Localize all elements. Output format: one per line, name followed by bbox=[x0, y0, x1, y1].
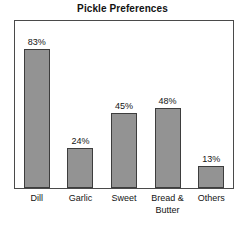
category-label: Bread &Butter bbox=[146, 192, 190, 216]
bars-layer: 83%24%45%48%13% bbox=[15, 21, 233, 188]
bar-dill: 83% bbox=[24, 21, 50, 188]
chart-title: Pickle Preferences bbox=[0, 3, 245, 14]
bar-rect bbox=[155, 108, 181, 188]
category-label-line: Dill bbox=[31, 193, 44, 203]
bar-rect bbox=[24, 49, 50, 188]
bar-sweet: 45% bbox=[111, 21, 137, 188]
category-label-line: Bread & bbox=[151, 193, 184, 203]
bar-rect bbox=[111, 113, 137, 188]
category-label: Garlic bbox=[59, 192, 103, 204]
bar-rect bbox=[198, 166, 224, 188]
category-axis-labels: DillGarlicSweetBread &ButterOthers bbox=[15, 192, 233, 226]
bar-others: 13% bbox=[198, 21, 224, 188]
bar-value-label: 48% bbox=[159, 96, 177, 106]
category-label-line: Butter bbox=[146, 204, 190, 216]
category-label: Sweet bbox=[102, 192, 146, 204]
category-label-line: Others bbox=[198, 193, 225, 203]
bar-value-label: 24% bbox=[71, 136, 89, 146]
bar-garlic: 24% bbox=[67, 21, 93, 188]
bar-value-label: 13% bbox=[202, 154, 220, 164]
bar-rect bbox=[67, 148, 93, 188]
bar-bread-butter: 48% bbox=[155, 21, 181, 188]
category-label-line: Sweet bbox=[111, 193, 136, 203]
category-label-line: Garlic bbox=[69, 193, 93, 203]
category-label: Dill bbox=[15, 192, 59, 204]
bar-value-label: 83% bbox=[28, 37, 46, 47]
bar-value-label: 45% bbox=[115, 101, 133, 111]
category-label: Others bbox=[189, 192, 233, 204]
bar-chart: Pickle Preferences 83%24%45%48%13% DillG… bbox=[0, 0, 245, 226]
